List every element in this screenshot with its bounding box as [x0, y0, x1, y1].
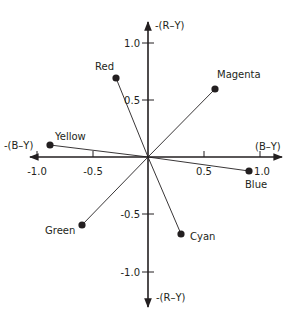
vector-diagram: -(R–Y) -(R–Y) -(B–Y) (B–Y) -1.0 -0.5 0.5…: [0, 0, 304, 325]
diagram-canvas: -(R–Y) -(R–Y) -(B–Y) (B–Y) -1.0 -0.5 0.5…: [0, 0, 304, 325]
y-top-label: -(R–Y): [155, 20, 185, 31]
blue-point: [245, 167, 252, 174]
y-tick-label-p10: 1.0: [124, 38, 140, 49]
yellow-point: [46, 141, 53, 148]
x-tick-label-p10: 1.0: [254, 166, 270, 177]
blue-label: Blue: [245, 179, 267, 190]
y-bottom-label: -(R–Y): [156, 292, 186, 303]
magenta-vector: [148, 89, 215, 157]
red-label: Red: [95, 61, 114, 72]
yellow-vector: [50, 145, 148, 157]
y-tick-label-p05: 0.5: [124, 95, 140, 106]
x-tick-label-m10: -1.0: [27, 166, 47, 177]
green-point: [78, 221, 85, 228]
y-tick-label-m10: -1.0: [120, 267, 140, 278]
red-vector: [116, 78, 148, 157]
y-tick-label-m05: -0.5: [120, 209, 140, 220]
cyan-label: Cyan: [190, 231, 215, 242]
x-tick-label-p05: 0.5: [196, 166, 212, 177]
cyan-vector: [148, 157, 181, 234]
green-label: Green: [45, 225, 75, 236]
x-negative-label: -(B–Y): [4, 140, 33, 151]
magenta-label: Magenta: [217, 69, 261, 80]
x-positive-label: (B–Y): [255, 141, 281, 152]
magenta-point: [211, 85, 218, 92]
yellow-label: Yellow: [54, 131, 86, 142]
cyan-point: [177, 230, 184, 237]
red-point: [112, 74, 119, 81]
x-tick-label-m05: -0.5: [83, 166, 103, 177]
